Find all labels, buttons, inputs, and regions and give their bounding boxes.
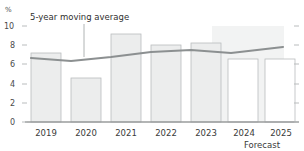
bar-2025: [265, 59, 295, 122]
y-tick-label-6: 6: [10, 60, 15, 69]
bar-2019: [31, 53, 61, 122]
y-tick-label-2: 2: [10, 99, 15, 108]
x-tick-label-2021: 2021: [115, 128, 137, 138]
x-tick-label-2020: 2020: [75, 128, 97, 138]
y-tick-label-0: 0: [10, 118, 15, 127]
x-tick-label-2024: 2024: [233, 128, 255, 138]
forecast-label: Forecast: [244, 140, 281, 150]
x-tick-label-2023: 2023: [195, 128, 217, 138]
chart-container: % 10 8 6 4 2 0 2019 2020 2021 2022 2023 …: [0, 0, 304, 151]
bar-2020: [71, 78, 101, 122]
bar-2024: [228, 59, 258, 122]
moving-average-annotation-label: 5-year moving average: [30, 12, 129, 22]
y-axis-ticks-left: [22, 26, 27, 122]
y-tick-label-8: 8: [10, 41, 15, 50]
x-tick-label-2019: 2019: [35, 128, 57, 138]
bar-2022: [151, 45, 181, 122]
y-tick-label-4: 4: [10, 80, 15, 89]
y-axis-unit-label: %: [5, 6, 12, 14]
bar-2023: [191, 43, 221, 122]
x-tick-label-2022: 2022: [155, 128, 177, 138]
bar-2021: [111, 34, 141, 122]
y-tick-label-10: 10: [4, 22, 14, 31]
bar-group-historical: [31, 34, 221, 122]
bar-chart: % 10 8 6 4 2 0 2019 2020 2021 2022 2023 …: [0, 0, 304, 151]
x-tick-label-2025: 2025: [270, 128, 292, 138]
